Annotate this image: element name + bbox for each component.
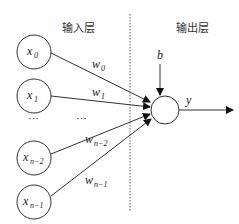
bias-label: b [157,48,163,62]
input-neuron-x0: x 0 [17,35,51,69]
connection-wn-2 [51,114,150,154]
weight-label-w1: w 1 [92,85,105,101]
svg-text:n−2: n−2 [94,139,107,148]
output-y-label: y [185,93,192,107]
weight-label-wn-1: w n−1 [85,173,107,189]
svg-text:1: 1 [101,92,105,101]
weight-label-w0: w 0 [92,57,105,73]
svg-text:x: x [26,44,33,58]
svg-text:w: w [85,132,93,146]
output-neuron [151,96,179,124]
svg-text:n−1: n−1 [30,201,43,210]
svg-text:w: w [92,57,100,71]
svg-text:x: x [22,150,29,164]
svg-text:n−2: n−2 [30,157,43,166]
perceptron-diagram: 输入层 输出层 x 0 x 1 x n−2 x n−1 ··· ··· w 0 … [0,0,239,224]
svg-text:n−1: n−1 [94,180,107,189]
input-layer-label: 输入层 [62,21,95,35]
weight-label-wn-2: w n−2 [85,132,107,148]
svg-text:x: x [26,88,33,102]
svg-text:w: w [85,173,93,187]
svg-text:1: 1 [34,95,38,104]
input-neuron-xn-1: x n−1 [17,185,51,219]
svg-text:x: x [22,194,29,208]
input-neuron-x1: x 1 [17,79,51,113]
svg-text:0: 0 [34,51,38,60]
svg-text:0: 0 [101,64,105,73]
input-neuron-xn-2: x n−2 [17,141,51,175]
output-layer-label: 输出层 [176,21,209,35]
svg-text:w: w [92,85,100,99]
input-ellipsis: ··· [28,112,39,124]
weight-ellipsis: ··· [76,112,87,124]
